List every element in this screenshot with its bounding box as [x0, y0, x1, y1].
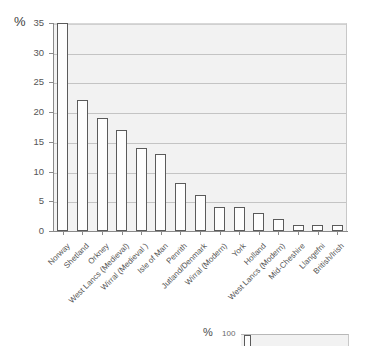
second-chart-bar [244, 335, 251, 346]
x-axis-tick-mark [259, 231, 260, 235]
second-chart-fragment: % 100 [0, 326, 369, 346]
second-chart-tick-label: 100 [222, 329, 235, 338]
x-axis-tick-mark [298, 231, 299, 235]
x-axis-tick-mark [102, 231, 103, 235]
x-axis-tick-mark [161, 231, 162, 235]
x-axis-tick-mark [200, 231, 201, 235]
x-axis-tick-mark [180, 231, 181, 235]
x-axis-tick-mark [82, 231, 83, 235]
x-axis-tick-mark [122, 231, 123, 235]
x-axis-tick-mark [337, 231, 338, 235]
second-chart-plot-area [241, 334, 349, 346]
x-axis-tick-mark [141, 231, 142, 235]
second-chart-unit-label: % [203, 326, 213, 338]
x-axis-tick-mark [220, 231, 221, 235]
bar-chart-figure: % 05101520253035 NorwayShetlandOrkneyWes… [0, 0, 369, 346]
x-axis-category-labels: NorwayShetlandOrkneyWest Lancs (Medieval… [0, 0, 369, 346]
x-axis-tick-mark [278, 231, 279, 235]
x-axis-tick-mark [239, 231, 240, 235]
x-axis-tick-mark [318, 231, 319, 235]
x-axis-tick-mark [63, 231, 64, 235]
